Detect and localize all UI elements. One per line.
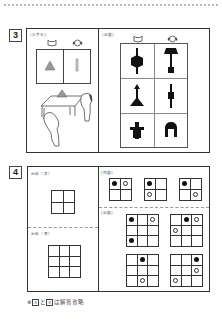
footer-prefix: ※ — [27, 299, 32, 305]
question-grid-4 — [170, 254, 203, 287]
dog-icon — [167, 35, 178, 43]
scene-illustration — [29, 89, 97, 152]
arch-table-icon — [163, 120, 179, 142]
section-4-divider — [98, 167, 99, 291]
right-panel-dashed-divider — [99, 207, 209, 208]
arrow-on-triangle-icon — [129, 82, 145, 110]
left-panel-dashed-divider — [28, 227, 98, 228]
section-3-number: 3 — [9, 29, 22, 42]
section-4-box: 台紙（表） 台紙（裏） [例題] [出題] — [27, 166, 210, 292]
example-grid-3 — [179, 178, 202, 201]
stick-with-square-icon — [163, 82, 179, 110]
footer-conj: と — [40, 299, 46, 305]
question-grid-3 — [126, 254, 159, 287]
question-grid — [120, 43, 188, 148]
top-dotted-divider — [4, 4, 218, 6]
question-label-4: [出題] — [101, 210, 113, 215]
example-grid-1 — [109, 178, 132, 201]
model-label: [お手本] — [30, 32, 46, 37]
footer-ref-3: 3 — [32, 299, 39, 306]
footer-note: ※3と4は解答省略 — [27, 298, 84, 306]
footer-suffix: は解答省略 — [54, 299, 84, 305]
dog-icon — [72, 39, 83, 47]
board-front-grid — [51, 190, 75, 214]
model-cell-divider — [63, 50, 64, 83]
cat-icon — [133, 35, 143, 43]
lamp-shape-icon — [163, 47, 179, 75]
board-front-label: 台紙（表） — [31, 171, 52, 176]
question-grid-row-divider — [121, 113, 187, 114]
cat-icon — [47, 39, 57, 47]
cross-block-icon — [129, 120, 145, 142]
question-grid-row-divider — [121, 78, 187, 79]
section-3-box: [お手本] [出題] — [26, 28, 210, 153]
section-4-number: 4 — [9, 166, 22, 179]
question-grid-1 — [126, 214, 159, 247]
gray-triangle-icon — [44, 60, 56, 71]
example-label: [例題] — [101, 170, 113, 175]
example-grid-2 — [144, 178, 167, 201]
model-answer-box — [36, 49, 91, 84]
question-grid-2 — [170, 214, 203, 247]
question-label: [出題] — [102, 32, 114, 37]
board-back-grid — [48, 245, 81, 278]
hexagon-on-stick-icon — [129, 47, 145, 75]
board-back-label: 台紙（裏） — [31, 231, 52, 236]
question-grid-col-divider — [154, 44, 155, 147]
footer-ref-4: 4 — [46, 299, 53, 306]
section-3-divider — [98, 29, 99, 152]
gray-bar-icon — [75, 58, 79, 72]
